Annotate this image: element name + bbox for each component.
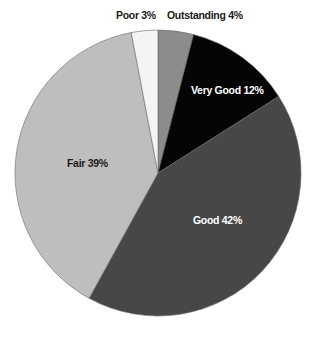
pie-chart: Poor 3% Outstanding 4% Very Good 12% Goo… [0, 0, 318, 341]
pie-slices [15, 30, 301, 316]
label-fair: Fair 39% [67, 157, 109, 169]
label-good: Good 42% [193, 214, 243, 226]
label-very-good: Very Good 12% [191, 84, 265, 96]
label-outstanding: Outstanding 4% [167, 9, 244, 21]
label-poor: Poor 3% [116, 9, 157, 21]
